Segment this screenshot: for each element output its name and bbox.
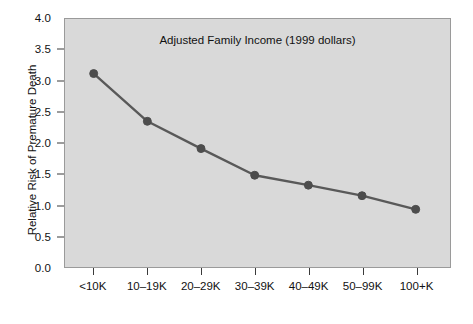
data-point-marker — [143, 117, 151, 125]
x-tick-mark — [255, 268, 256, 275]
x-tick-mark — [417, 268, 418, 275]
y-tick-mark — [57, 80, 64, 81]
data-point-marker — [197, 145, 205, 153]
x-tick-mark — [201, 268, 202, 275]
data-point-marker — [251, 171, 259, 179]
x-axis: <10K10–19K20–29K30–39K40–49K50–99K100+K — [0, 268, 473, 324]
x-tick-mark — [93, 268, 94, 275]
y-tick-label: 4.0 — [35, 12, 51, 24]
x-tick-label: 40–49K — [289, 280, 329, 292]
data-point-marker — [304, 181, 312, 189]
chart-figure: 0.00.51.01.52.02.53.03.54.0 Relative Ris… — [0, 0, 473, 324]
plot-area — [64, 18, 451, 268]
y-tick-label: 3.5 — [35, 43, 51, 55]
y-tick-mark — [57, 174, 64, 175]
x-tick-label: <10K — [79, 280, 106, 292]
x-axis-title: Adjusted Family Income (1999 dollars) — [64, 34, 451, 46]
x-tick-mark — [147, 268, 148, 275]
y-tick-mark — [57, 236, 64, 237]
x-tick-label: 100+K — [400, 280, 434, 292]
y-tick-mark — [57, 205, 64, 206]
data-point-marker — [90, 70, 98, 78]
x-tick-label: 20–29K — [181, 280, 221, 292]
x-tick-mark — [309, 268, 310, 275]
x-tick-mark — [363, 268, 364, 275]
y-tick-mark — [57, 111, 64, 112]
data-point-marker — [412, 205, 420, 213]
data-point-marker — [358, 192, 366, 200]
y-tick-mark — [57, 143, 64, 144]
x-tick-label: 30–39K — [235, 280, 275, 292]
line-series-svg — [65, 19, 450, 267]
y-axis-title: Relative Risk of Premature Death — [26, 55, 38, 245]
y-tick-mark — [57, 49, 64, 50]
x-tick-label: 50–99K — [343, 280, 383, 292]
x-tick-label: 10–19K — [127, 280, 167, 292]
data-line — [94, 74, 416, 210]
